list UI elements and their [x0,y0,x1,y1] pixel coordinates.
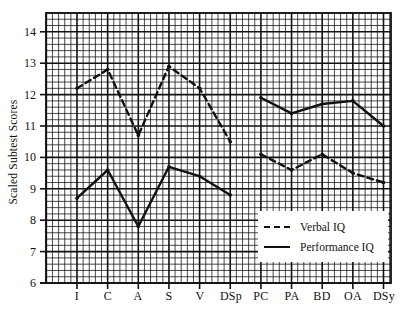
data-point-marker [320,102,324,106]
data-point-marker [167,165,171,169]
performance-iq-line [77,167,230,227]
legend-label-verbal: Verbal IQ [300,221,345,233]
data-point-marker [259,96,263,100]
y-tick-9: 9 [18,182,36,197]
data-point-marker [198,174,202,178]
data-point-marker [290,168,294,172]
verbal-iq-line [77,66,230,141]
solid-line-swatch-icon [264,246,290,248]
chart-canvas [0,0,403,316]
legend-item-verbal: Verbal IQ [264,220,345,234]
data-point-marker [351,99,355,103]
data-point-marker [167,65,171,69]
y-tick-12: 12 [18,88,36,103]
data-point-marker [320,152,324,156]
data-point-marker [351,171,355,175]
y-tick-11: 11 [18,119,36,134]
y-tick-13: 13 [18,56,36,71]
dashed-line-swatch-icon [264,226,290,228]
y-tick-7: 7 [18,245,36,260]
data-point-marker [137,225,141,229]
chart-legend: Verbal IQ Performance IQ [258,211,388,262]
data-point-marker [290,112,294,116]
data-point-marker [75,87,79,91]
y-tick-8: 8 [18,213,36,228]
y-tick-6: 6 [18,276,36,291]
data-point-marker [106,168,110,172]
data-point-marker [228,140,232,144]
data-point-marker [198,87,202,91]
y-tick-14: 14 [18,25,36,40]
y-tick-10: 10 [18,150,36,165]
data-point-marker [106,68,110,72]
legend-label-performance: Performance IQ [300,241,374,253]
data-point-marker [75,196,79,200]
data-point-marker [382,124,386,128]
data-point-marker [228,193,232,197]
legend-item-performance: Performance IQ [264,240,374,254]
data-point-marker [382,181,386,185]
data-point-marker [259,152,263,156]
data-point-marker [137,134,141,138]
x-tick-DSy: DSy [364,289,403,304]
